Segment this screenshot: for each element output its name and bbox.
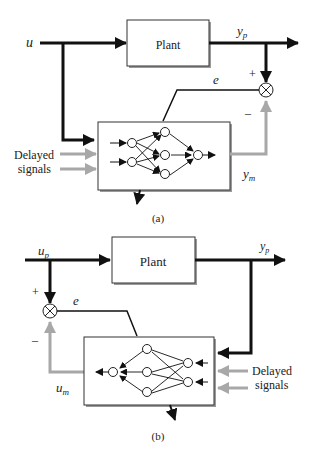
plant-label: Plant xyxy=(156,38,181,52)
caption-b: (b) xyxy=(152,430,165,443)
summing-junction xyxy=(259,83,273,97)
diagram-a: u Plant yp + e – xyxy=(14,20,298,225)
plant-block: Plant xyxy=(112,237,197,285)
error-label-e: e xyxy=(73,293,79,308)
input-label-up: up xyxy=(38,243,50,260)
input-to-model-line xyxy=(63,43,94,140)
neural-network-model-block xyxy=(84,337,216,420)
minus-sign: – xyxy=(31,333,39,347)
caption-a: (a) xyxy=(152,212,165,225)
diagram-b: up Plant yp + e – um xyxy=(25,237,292,443)
delayed-label-line2: signals xyxy=(18,162,52,176)
plus-sign: + xyxy=(32,285,39,299)
adaptation-arrow xyxy=(170,405,175,420)
plant-output-to-model-line xyxy=(218,260,251,353)
minus-sign: – xyxy=(244,106,252,120)
error-label-e: e xyxy=(213,72,219,87)
model-output-label-ym: ym xyxy=(241,166,256,183)
error-signal-line xyxy=(57,311,137,336)
neural-network-model-block xyxy=(98,122,232,204)
model-output-label-um: um xyxy=(56,380,70,397)
input-label-u: u xyxy=(26,35,33,50)
delayed-label-line2: signals xyxy=(255,378,289,392)
diagram-canvas: u Plant yp + e – xyxy=(0,0,311,455)
plant-block: Plant xyxy=(127,20,211,68)
model-output-line xyxy=(50,322,84,372)
summing-junction xyxy=(43,304,57,318)
output-label-yp: yp xyxy=(235,23,248,40)
output-label-yp: yp xyxy=(259,239,269,255)
plus-sign: + xyxy=(249,67,256,81)
delayed-label-line1: Delayed xyxy=(14,148,54,162)
plant-label: Plant xyxy=(140,254,167,269)
adaptation-arrow xyxy=(137,190,140,204)
delayed-label-line1: Delayed xyxy=(252,364,292,378)
